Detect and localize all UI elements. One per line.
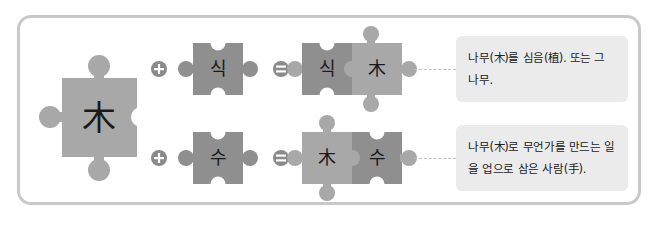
result-right-char: 木 [368,60,386,78]
description-box: 나무(木)로 무언가를 만드는 일을 업으로 삼은 사람(手). [456,125,628,191]
description-box: 나무(木)를 심음(植). 또는 그 나무. [456,36,628,102]
result-left-char: 木 [318,149,336,167]
description-text: 나무(木)를 심음(植). 또는 그 나무. [468,51,605,87]
base-piece-char: 木 [82,101,116,135]
dashed-connector [414,69,456,70]
description-text: 나무(木)로 무언가를 만드는 일을 업으로 삼은 사람(手). [468,140,615,176]
plus-icon [151,61,167,77]
result-puzzle-piece [287,26,417,112]
result-right-char: 수 [369,149,386,167]
plus-icon [151,150,167,166]
result-puzzle-piece [287,115,417,201]
result-left-char: 식 [319,60,336,78]
equals-icon [273,150,289,166]
dashed-connector [414,158,456,159]
add-piece-char: 수 [210,149,227,167]
add-piece-char: 식 [210,60,227,78]
equals-icon [273,61,289,77]
